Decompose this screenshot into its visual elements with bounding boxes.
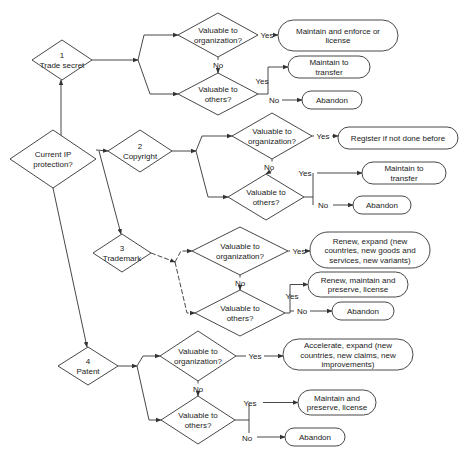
root-decision-current-ip-protection: Current IPprotection? bbox=[10, 130, 96, 188]
type-decision-patent-text: Patent bbox=[76, 367, 100, 376]
question-org-trademark-shape bbox=[192, 227, 288, 275]
outcome-others-yes-copyright-text: Maintain to bbox=[384, 164, 424, 173]
edge-root-to-patent bbox=[53, 188, 87, 347]
label-no-others-trade-secret: No bbox=[269, 96, 280, 105]
question-org-trade-secret-shape bbox=[178, 13, 258, 57]
type-decision-trade-secret-shape bbox=[32, 40, 92, 80]
outcome-others-no-trademark-text: Abandon bbox=[347, 307, 379, 316]
type-decision-patent-shape bbox=[58, 347, 118, 385]
outcome-others-no-patent: Abandon bbox=[285, 428, 345, 446]
edge-root-to-copyright bbox=[96, 150, 108, 151]
nodes: Current IPprotection?1Trade secretValuab… bbox=[10, 13, 458, 446]
type-decision-copyright-shape bbox=[108, 130, 172, 172]
outcome-others-yes-patent-text: Maintain and bbox=[314, 394, 360, 403]
root-decision-current-ip-protection-text: Current IP bbox=[35, 150, 71, 159]
outcome-others-yes-trademark-text: Renew, maintain and bbox=[321, 276, 396, 285]
outcome-others-yes-trade-secret-text: Maintain to bbox=[309, 58, 349, 67]
label-no-others-trademark: No bbox=[297, 307, 308, 316]
outcome-org-yes-trademark-text: services, new variants) bbox=[329, 256, 411, 265]
question-org-copyright: Valuable toorganization? bbox=[232, 113, 312, 159]
question-others-trade-secret: Valuable toothers? bbox=[178, 73, 258, 115]
edge-patent-to-org-question bbox=[137, 356, 160, 366]
label-no-org-trademark: No bbox=[235, 279, 246, 288]
outcome-others-yes-trade-secret-text: transfer bbox=[315, 68, 342, 77]
outcome-others-no-patent-text: Abandon bbox=[299, 433, 331, 442]
question-others-patent-text: Valuable to bbox=[178, 411, 218, 420]
outcome-others-yes-patent: Maintain andpreserve, license bbox=[298, 390, 376, 415]
question-org-copyright-shape bbox=[232, 113, 312, 159]
edge-copyright-to-others-question bbox=[196, 151, 228, 197]
root-decision-current-ip-protection-shape bbox=[10, 130, 96, 188]
question-others-trade-secret-text: others? bbox=[205, 95, 232, 104]
question-others-patent: Valuable toothers? bbox=[161, 396, 235, 444]
outcome-others-no-copyright: Abandon bbox=[353, 196, 411, 214]
outcome-others-no-copyright-text: Abandon bbox=[366, 201, 398, 210]
outcome-org-yes-copyright: Register if not done before bbox=[338, 127, 458, 149]
label-no-org-copyright: No bbox=[264, 163, 275, 172]
type-decision-trademark-text: 3 bbox=[120, 244, 125, 253]
question-org-patent-text: organization? bbox=[174, 357, 223, 366]
label-no-org-patent: No bbox=[193, 385, 204, 394]
question-others-trademark-text: others? bbox=[227, 314, 254, 323]
question-org-trademark-text: Valuable to bbox=[220, 242, 260, 251]
edge-copyright-to-org-question bbox=[196, 136, 232, 151]
type-decision-trademark: 3Trademark bbox=[93, 234, 151, 272]
type-decision-patent-text: 4 bbox=[86, 357, 91, 366]
outcome-org-yes-trade-secret-text: license bbox=[326, 36, 351, 45]
outcome-org-yes-patent: Accelerate, expand (newcountries, new cl… bbox=[283, 339, 413, 370]
edge-trade-secret-to-others-question bbox=[138, 60, 178, 94]
outcome-org-yes-patent-text: Accelerate, expand (new bbox=[304, 341, 392, 350]
question-others-copyright: Valuable toothers? bbox=[228, 174, 304, 220]
outcome-others-no-trade-secret-text: Abandon bbox=[316, 96, 348, 105]
question-org-copyright-text: Valuable to bbox=[252, 127, 292, 136]
type-decision-trade-secret: 1Trade secret bbox=[32, 40, 92, 80]
outcome-others-yes-trademark: Renew, maintain andpreserve, license bbox=[308, 272, 408, 297]
label-yes-others-patent: Yes bbox=[243, 399, 256, 408]
label-yes-org-trade-secret: Yes bbox=[260, 31, 273, 40]
question-org-trade-secret-text: Valuable to bbox=[198, 26, 238, 35]
question-org-patent-shape bbox=[160, 331, 236, 381]
edge-trademark-to-org-question bbox=[175, 251, 192, 262]
outcome-others-no-trademark: Abandon bbox=[332, 302, 394, 320]
outcome-org-yes-trademark-text: countries, new goods and bbox=[324, 246, 415, 255]
question-others-patent-shape bbox=[161, 396, 235, 444]
type-decision-trademark-shape bbox=[93, 234, 151, 272]
outcome-others-no-trade-secret: Abandon bbox=[302, 91, 362, 109]
outcome-org-yes-copyright-text: Register if not done before bbox=[351, 134, 446, 143]
ip-decision-flowchart: Current IPprotection?1Trade secretValuab… bbox=[0, 0, 468, 461]
edge-root-to-trademark bbox=[99, 151, 121, 234]
type-decision-copyright-text: 2 bbox=[138, 142, 143, 151]
outcome-org-yes-trade-secret-text: Maintain and enforce or bbox=[296, 27, 380, 36]
outcome-org-yes-patent-text: countries, new claims, new bbox=[300, 351, 396, 360]
type-decision-trade-secret-text: 1 bbox=[60, 51, 65, 60]
outcome-others-yes-copyright: Maintain totransfer bbox=[362, 162, 446, 184]
outcome-others-yes-trade-secret: Maintain totransfer bbox=[288, 56, 370, 78]
type-decision-trademark-text: Trademark bbox=[103, 254, 142, 263]
question-others-patent-text: others? bbox=[185, 421, 212, 430]
label-yes-others-copyright: Yes bbox=[298, 169, 311, 178]
question-others-trademark-shape bbox=[195, 290, 285, 336]
outcome-others-yes-trademark-text: preserve, license bbox=[328, 285, 389, 294]
edge-trade-secret-others-yes bbox=[268, 67, 288, 94]
question-others-trademark: Valuable toothers? bbox=[195, 290, 285, 336]
type-decision-patent: 4Patent bbox=[58, 347, 118, 385]
type-decision-trade-secret-text: Trade secret bbox=[40, 61, 85, 70]
outcome-org-yes-trademark: Renew, expand (newcountries, new goods a… bbox=[310, 232, 430, 268]
outcome-org-yes-trade-secret: Maintain and enforce orlicense bbox=[278, 20, 398, 51]
label-yes-others-trademark: Yes bbox=[285, 292, 298, 301]
question-others-copyright-text: Valuable to bbox=[246, 188, 286, 197]
edge-trademark-to-split bbox=[151, 253, 175, 262]
outcome-others-yes-patent-text: preserve, license bbox=[307, 403, 368, 412]
label-no-others-patent: No bbox=[242, 434, 253, 443]
question-org-copyright-text: organization? bbox=[248, 137, 297, 146]
edge-trademark-to-others-question bbox=[175, 262, 195, 313]
label-yes-others-trade-secret: Yes bbox=[255, 77, 268, 86]
question-org-trade-secret-text: organization? bbox=[194, 36, 243, 45]
question-org-trademark: Valuable toorganization? bbox=[192, 227, 288, 275]
question-others-copyright-text: others? bbox=[253, 198, 280, 207]
question-others-trade-secret-shape bbox=[178, 73, 258, 115]
question-org-patent-text: Valuable to bbox=[178, 347, 218, 356]
question-org-trade-secret: Valuable toorganization? bbox=[178, 13, 258, 57]
question-others-trademark-text: Valuable to bbox=[220, 304, 260, 313]
outcome-others-yes-copyright-text: transfer bbox=[390, 174, 417, 183]
